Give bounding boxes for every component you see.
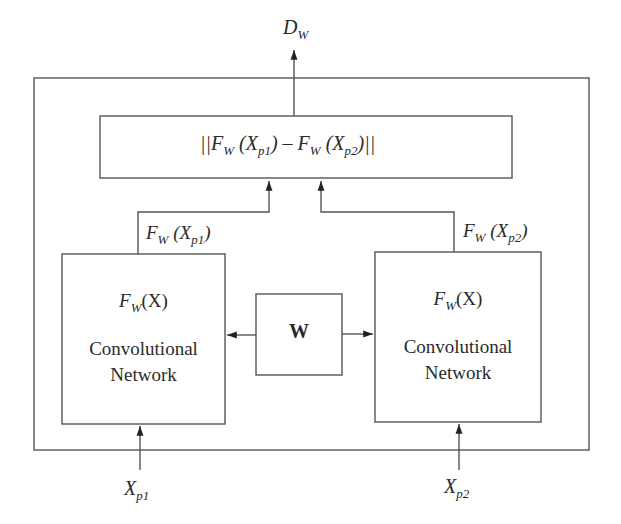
output-label: DW <box>283 16 308 43</box>
label-x: X <box>180 222 192 243</box>
label-f: F <box>463 220 475 241</box>
input-subscript: p1 <box>136 488 149 503</box>
function-arg: (X) <box>142 290 168 311</box>
label-f-sub: W <box>158 232 169 247</box>
left-network-name: Convolutional Network <box>62 336 225 388</box>
network-name-line2: Network <box>62 362 225 388</box>
function-f: F <box>434 288 446 309</box>
diagram-canvas <box>0 0 621 524</box>
input-symbol: X <box>444 475 456 497</box>
network-name-line1: Convolutional <box>62 336 225 362</box>
right-output-label: FW (Xp2) <box>463 220 527 246</box>
formula-sub: p1 <box>258 143 271 158</box>
label-f: F <box>146 222 158 243</box>
network-name-line1: Convolutional <box>375 334 541 360</box>
formula-part: )|| <box>358 132 376 154</box>
label-x-sub: p1 <box>191 232 204 247</box>
left-input-label: Xp1 <box>124 477 149 504</box>
input-symbol: X <box>124 477 136 499</box>
shared-weights-label: W <box>256 320 342 343</box>
formula-part: ||F <box>200 132 223 154</box>
formula-part: ) – F <box>271 132 310 154</box>
right-input-label: Xp2 <box>444 475 469 502</box>
input-subscript: p2 <box>456 486 469 501</box>
left-output-label: FW (Xp1) <box>146 222 210 248</box>
right-output-connector <box>321 181 454 252</box>
network-name-line2: Network <box>375 360 541 386</box>
label-x: X <box>497 220 509 241</box>
function-f: F <box>119 290 131 311</box>
function-sub: W <box>131 300 142 315</box>
formula-sub: W <box>223 143 234 158</box>
left-function-label: FW(X) <box>62 290 225 316</box>
label-x-sub: p2 <box>508 230 521 245</box>
right-function-label: FW(X) <box>375 288 541 314</box>
formula-part: (X <box>321 132 345 154</box>
formula-sub: W <box>310 143 321 158</box>
formula-sub: p2 <box>345 143 358 158</box>
weights-symbol: W <box>289 320 309 342</box>
function-sub: W <box>445 298 456 313</box>
output-symbol: D <box>283 16 297 38</box>
function-arg: (X) <box>456 288 482 309</box>
output-subscript: W <box>297 27 308 42</box>
label-f-sub: W <box>475 230 486 245</box>
distance-formula: ||FW (Xp1) – FW (Xp2)|| <box>200 132 375 159</box>
right-network-name: Convolutional Network <box>375 334 541 386</box>
formula-part: (X <box>234 132 258 154</box>
